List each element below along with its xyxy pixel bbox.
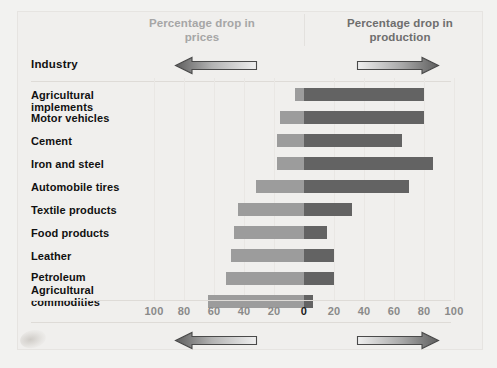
footer-rule <box>31 322 451 323</box>
bar-production-petroleum <box>304 272 334 285</box>
arrow-right-icon <box>356 56 440 75</box>
axis-tick-2: 60 <box>201 305 227 317</box>
gridline <box>154 78 155 300</box>
axis-tick-8: 60 <box>381 305 407 317</box>
axis-tick-4: 20 <box>261 305 287 317</box>
row-label-food-products: Food products <box>31 228 109 240</box>
bar-production-food-products <box>304 226 327 239</box>
bar-production-automobile-tires <box>304 180 409 193</box>
header-divider <box>304 14 305 46</box>
bar-prices-food-products <box>234 226 305 239</box>
bar-prices-automobile-tires <box>256 180 304 193</box>
bar-production-agricultural-implements <box>304 88 424 101</box>
axis-tick-3: 40 <box>231 305 257 317</box>
bar-production-textile-products <box>304 203 352 216</box>
arrow-right-icon <box>356 331 440 350</box>
row-label-agricultural-implements: Agricultural implements <box>31 90 94 113</box>
row-label-motor-vehicles: Motor vehicles <box>31 113 109 125</box>
axis-tick-6: 20 <box>321 305 347 317</box>
header-rule <box>31 81 451 82</box>
axis-tick-1: 80 <box>171 305 197 317</box>
row-label-cement: Cement <box>31 136 72 148</box>
row-label-iron-and-steel: Iron and steel <box>31 159 104 171</box>
bar-prices-cement <box>277 134 304 147</box>
axis-tick-5: 0 <box>291 305 317 317</box>
bar-prices-textile-products <box>238 203 304 216</box>
bar-production-motor-vehicles <box>304 111 424 124</box>
chart-figure: Percentage drop in prices Percentage dro… <box>0 0 497 368</box>
legend-label-prices: Percentage drop in prices <box>132 17 272 44</box>
arrow-left-icon <box>174 331 258 350</box>
axis-tick-0: 100 <box>141 305 167 317</box>
arrow-left-icon <box>174 56 258 75</box>
label-column-header: Industry <box>31 58 78 70</box>
row-label-agricultural-commodities: Agricultural commodities <box>31 285 100 308</box>
bar-production-cement <box>304 134 402 147</box>
bar-production-leather <box>304 249 334 262</box>
gridline <box>214 78 215 300</box>
axis-rule <box>31 300 451 301</box>
gridline <box>244 78 245 300</box>
bar-prices-iron-and-steel <box>277 157 304 170</box>
bar-prices-petroleum <box>226 272 304 285</box>
axis-tick-7: 40 <box>351 305 377 317</box>
row-label-textile-products: Textile products <box>31 205 117 217</box>
legend-label-production: Percentage drop in production <box>320 17 480 44</box>
row-label-leather: Leather <box>31 251 71 263</box>
gridline <box>454 78 455 300</box>
bar-production-iron-and-steel <box>304 157 433 170</box>
bar-prices-leather <box>231 249 305 262</box>
axis-tick-9: 80 <box>411 305 437 317</box>
gridline <box>424 78 425 300</box>
bar-prices-agricultural-implements <box>295 88 304 101</box>
axis-tick-10: 100 <box>441 305 467 317</box>
row-label-petroleum: Petroleum <box>31 272 86 284</box>
bar-prices-motor-vehicles <box>280 111 304 124</box>
gridline <box>184 78 185 300</box>
row-label-automobile-tires: Automobile tires <box>31 182 119 194</box>
